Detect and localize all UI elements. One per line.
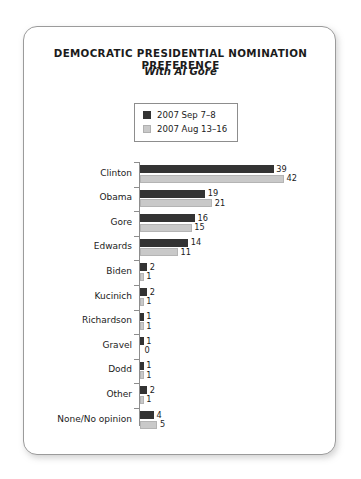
bar-value-label: 2 [150,262,155,272]
axis-tick [134,285,139,286]
bar-value-label: 5 [160,419,165,429]
bar[interactable] [140,322,143,330]
axis-tick [134,236,139,237]
axis-tick [134,334,139,335]
bar[interactable] [140,337,143,345]
bar-value-label: 1 [146,311,151,321]
bar-value-label: 1 [146,394,151,404]
bar[interactable] [140,224,191,232]
chart-plot-area: Clinton3942Obama1921Gore1615Edwards1411B… [24,160,337,430]
bar-value-label: 42 [287,173,297,183]
bar[interactable] [140,421,157,429]
bar[interactable] [140,263,147,271]
axis-tick [134,383,139,384]
chart-row: None/No opinion45 [24,408,337,433]
chart-row: Other21 [24,383,337,408]
category-label: Gore [24,217,132,227]
bar-value-label: 4 [157,410,162,420]
bar-value-label: 1 [146,296,151,306]
legend-item[interactable]: 2007 Sep 7–8 [143,108,229,122]
legend-swatch-icon [143,125,151,133]
axis-tick [134,260,139,261]
category-label: Kucinich [24,291,132,301]
category-label: Gravel [24,340,132,350]
legend-label: 2007 Aug 13–16 [157,124,227,134]
category-label: Clinton [24,168,132,178]
category-label: Other [24,389,132,399]
chart-row: Edwards1411 [24,236,337,261]
bar-value-label: 14 [191,237,201,247]
chart-row: Gravel10 [24,334,337,359]
bar-value-label: 16 [198,213,208,223]
legend-item[interactable]: 2007 Aug 13–16 [143,122,229,136]
axis-tick [134,408,139,409]
axis-tick [134,211,139,212]
bar[interactable] [140,313,143,321]
axis-tick [134,310,139,311]
bar[interactable] [140,362,143,370]
category-label: Richardson [24,315,132,325]
bar-value-label: 2 [150,287,155,297]
category-label: Edwards [24,241,132,251]
bar-value-label: 2 [150,385,155,395]
bar-value-label: 1 [146,321,151,331]
chart-row: Biden21 [24,260,337,285]
chart-subtitle: With Al Gore [24,66,337,77]
axis-tick [134,359,139,360]
bar-value-label: 1 [146,370,151,380]
bar[interactable] [140,175,284,183]
bar-value-label: 0 [144,345,149,355]
chart-row: Clinton3942 [24,162,337,187]
bar-value-label: 11 [181,247,191,257]
legend-label: 2007 Sep 7–8 [157,110,216,120]
bar[interactable] [140,411,154,419]
legend-swatch-icon [143,111,151,119]
bar-value-label: 39 [276,164,286,174]
bar[interactable] [140,248,178,256]
bar[interactable] [140,396,143,404]
bar[interactable] [140,165,273,173]
chart-legend: 2007 Sep 7–82007 Aug 13–16 [134,103,238,142]
category-label: Biden [24,266,132,276]
bar-value-label: 1 [146,271,151,281]
bar[interactable] [140,298,143,306]
bar[interactable] [140,273,143,281]
bar[interactable] [140,214,195,222]
screenshot-root: DEMOCRATIC PRESIDENTIAL NOMINATION PREFE… [0,0,361,479]
category-label: Dodd [24,364,132,374]
bar-value-label: 15 [194,222,204,232]
bar-value-label: 1 [146,360,151,370]
category-label: None/No opinion [24,414,132,424]
category-label: Obama [24,192,132,202]
bar[interactable] [140,288,147,296]
chart-card: DEMOCRATIC PRESIDENTIAL NOMINATION PREFE… [23,26,336,455]
bar[interactable] [140,190,205,198]
bar-value-label: 1 [146,336,151,346]
axis-tick [134,162,139,163]
chart-row: Richardson11 [24,310,337,335]
chart-row: Gore1615 [24,211,337,236]
chart-row: Obama1921 [24,187,337,212]
axis-tick [134,187,139,188]
chart-row: Kucinich21 [24,285,337,310]
bar[interactable] [140,199,212,207]
bar[interactable] [140,371,143,379]
chart-row: Dodd11 [24,359,337,384]
bar-value-label: 21 [215,198,225,208]
bar[interactable] [140,386,147,394]
bar[interactable] [140,239,188,247]
bar-value-label: 19 [208,188,218,198]
